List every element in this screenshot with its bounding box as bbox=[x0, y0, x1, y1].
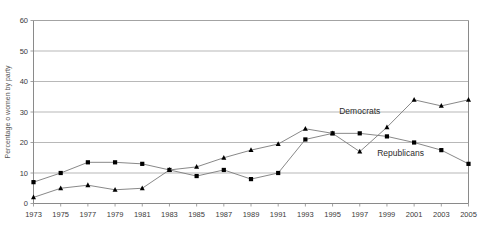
data-point-marker bbox=[358, 131, 362, 135]
x-tick-label: 1981 bbox=[134, 210, 151, 219]
data-point-marker bbox=[439, 148, 443, 152]
y-tick-label: 30 bbox=[20, 108, 28, 117]
x-tick-label: 1991 bbox=[270, 210, 287, 219]
data-point-marker bbox=[31, 180, 35, 184]
x-tick-label: 1999 bbox=[379, 210, 396, 219]
data-point-marker bbox=[303, 126, 308, 131]
x-tick-label: 2005 bbox=[460, 210, 477, 219]
x-tick-label: 1997 bbox=[351, 210, 368, 219]
data-point-marker bbox=[466, 97, 471, 102]
y-axis-label: Percentage o women by party bbox=[4, 65, 12, 158]
data-point-marker bbox=[276, 171, 280, 175]
data-point-marker bbox=[466, 162, 470, 166]
data-point-marker bbox=[140, 162, 144, 166]
gridlines-group: 0102030405060 bbox=[20, 16, 469, 208]
x-axis-group: 1973197519771979198119831985198719891991… bbox=[25, 204, 477, 219]
data-point-marker bbox=[59, 171, 63, 175]
series-annotation-republicans: Republicans bbox=[377, 148, 424, 158]
data-point-marker bbox=[385, 134, 389, 138]
y-tick-label: 0 bbox=[24, 199, 28, 208]
data-point-marker bbox=[412, 140, 416, 144]
y-tick-label: 50 bbox=[20, 47, 28, 56]
x-tick-label: 2003 bbox=[433, 210, 450, 219]
series-annotation-democrats: Democrats bbox=[339, 106, 380, 116]
x-tick-label: 1989 bbox=[243, 210, 260, 219]
x-tick-label: 1977 bbox=[80, 210, 97, 219]
x-tick-label: 1995 bbox=[324, 210, 341, 219]
x-tick-label: 2001 bbox=[406, 210, 423, 219]
x-tick-label: 1975 bbox=[52, 210, 69, 219]
y-tick-label: 10 bbox=[20, 169, 28, 178]
data-point-marker bbox=[303, 137, 307, 141]
data-point-marker bbox=[412, 97, 417, 102]
data-point-marker bbox=[85, 182, 90, 187]
data-point-marker bbox=[140, 185, 145, 190]
line-chart: 0102030405060197319751977197919811983198… bbox=[0, 0, 489, 242]
data-point-marker bbox=[195, 174, 199, 178]
data-point-marker bbox=[113, 160, 117, 164]
x-tick-label: 1979 bbox=[107, 210, 124, 219]
chart-screenshot: 0102030405060197319751977197919811983198… bbox=[0, 0, 489, 242]
data-point-marker bbox=[222, 168, 226, 172]
x-tick-label: 1987 bbox=[215, 210, 232, 219]
data-point-marker bbox=[249, 177, 253, 181]
x-tick-label: 1983 bbox=[161, 210, 178, 219]
data-point-marker bbox=[86, 160, 90, 164]
x-tick-label: 1985 bbox=[188, 210, 205, 219]
y-tick-label: 60 bbox=[20, 16, 28, 25]
x-tick-label: 1973 bbox=[25, 210, 42, 219]
chart-svg: 0102030405060197319751977197919811983198… bbox=[0, 0, 489, 242]
y-tick-label: 40 bbox=[20, 77, 28, 86]
y-tick-label: 20 bbox=[20, 138, 28, 147]
x-tick-label: 1993 bbox=[297, 210, 314, 219]
data-point-marker bbox=[276, 141, 281, 146]
